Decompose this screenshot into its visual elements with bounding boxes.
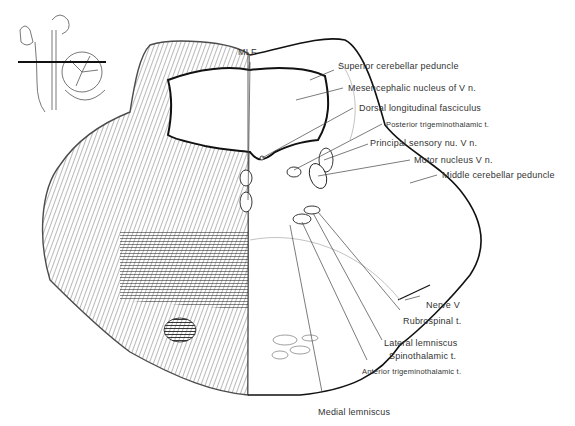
pons-diagram (0, 0, 575, 426)
label-lateral-lemniscus: Lateral lemniscus (384, 338, 457, 348)
label-spinothalamic: Spinothalamic t. (389, 351, 456, 361)
label-mesencephalic-nucleus: Mesencephalic nucleus of V n. (348, 83, 476, 93)
label-posterior-trigeminothalamic: Posterior trigeminothalamic t. (386, 120, 489, 129)
brainstem-sagittal-inset (18, 15, 106, 112)
label-superior-cerebellar-peduncle: Superior cerebellar peduncle (338, 61, 459, 71)
label-principal-sensory-nucleus: Principal sensory nu. V n. (370, 138, 477, 148)
label-anterior-trigeminothalamic: Anterior trigeminothalamic t. (362, 367, 461, 376)
label-middle-cerebellar-peduncle: Middle cerebellar peduncle (442, 170, 555, 180)
label-medial-lemniscus: Medial lemniscus (318, 407, 390, 417)
label-rubrospinal: Rubrospinal t. (403, 316, 461, 326)
label-dorsal-longitudinal-fasciculus: Dorsal longitudinal fasciculus (359, 103, 481, 113)
label-mlf: MLF (238, 47, 257, 57)
label-nerve-v: Nerve V (426, 300, 460, 310)
label-motor-nucleus: Motor nucleus V n. (414, 155, 493, 165)
